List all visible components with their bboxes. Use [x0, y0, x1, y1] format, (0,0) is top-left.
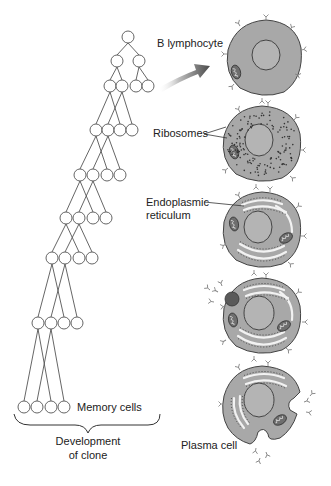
- clone-cell-node: [59, 252, 71, 264]
- cell-b-lymphocyte: [222, 15, 307, 104]
- clone-cell-node: [114, 169, 126, 181]
- clone-cell-node: [46, 252, 58, 264]
- clone-cell-node: [58, 317, 70, 329]
- clone-cell-node: [45, 317, 57, 329]
- tree-branch: [52, 264, 64, 317]
- label-endoplasmic: Endoplasmic: [146, 196, 209, 208]
- clone-diagram: [0, 0, 331, 486]
- tree-branch: [128, 43, 139, 55]
- clone-cell-node: [74, 169, 86, 181]
- clone-cell-node: [90, 124, 102, 136]
- clone-cell-node: [102, 124, 114, 136]
- memory-cell-node: [18, 401, 30, 413]
- clone-cell-node: [87, 212, 99, 224]
- tree-branch: [110, 92, 120, 124]
- tree-branch: [24, 329, 38, 401]
- clone-cell-node: [73, 252, 85, 264]
- tree-branch: [52, 224, 66, 252]
- clone-cell-node: [32, 317, 44, 329]
- label-of-clone: of clone: [46, 449, 130, 461]
- clone-cell-node: [60, 212, 72, 224]
- clone-cell-node: [142, 80, 154, 92]
- tree-branch: [139, 67, 148, 80]
- tree-branch: [38, 264, 52, 317]
- tree-branch: [79, 224, 92, 252]
- tree-branch: [122, 92, 132, 124]
- label-memory-cells: Memory cells: [77, 401, 142, 413]
- label-reticulum: reticulum: [146, 209, 191, 221]
- clone-cell-node: [73, 212, 85, 224]
- clone-cell-node: [111, 55, 123, 67]
- clone-cell-node: [133, 55, 145, 67]
- memory-cell-node: [45, 401, 57, 413]
- clone-cell-node: [104, 80, 116, 92]
- tree-branch: [66, 181, 80, 212]
- cell-ribosomes: [222, 101, 305, 190]
- label-plasma-cell: Plasma cell: [181, 439, 237, 451]
- tree-branch: [51, 329, 64, 401]
- memory-cell-node: [58, 401, 70, 413]
- clone-cell-node: [114, 124, 126, 136]
- label-development: Development: [46, 435, 130, 447]
- tree-branch: [117, 67, 122, 80]
- tree-branch: [80, 136, 96, 169]
- clone-cell-node: [130, 80, 142, 92]
- clone-cell-node: [126, 124, 138, 136]
- clone-cell-node: [122, 31, 134, 43]
- cell-endoplasmic-reticulum: [220, 187, 307, 276]
- tree-branch: [108, 136, 120, 169]
- tree-branch: [117, 43, 128, 55]
- clone-cell-node: [87, 169, 99, 181]
- label-b-lymphocyte: B lymphocyte: [157, 37, 223, 49]
- clone-cell-node: [116, 80, 128, 92]
- tree-branch: [136, 67, 139, 80]
- clone-cell-node: [100, 212, 112, 224]
- clone-cell-node: [101, 169, 113, 181]
- tree-branch: [93, 181, 106, 212]
- label-ribosomes: Ribosomes: [153, 127, 208, 139]
- clone-cell-node: [71, 317, 83, 329]
- clone-brace: [14, 414, 160, 433]
- clone-tree: [18, 31, 154, 413]
- cell-secreting: [204, 273, 307, 362]
- tree-branch: [65, 264, 77, 317]
- tree-branch: [110, 67, 117, 80]
- tree-branch: [96, 92, 110, 124]
- clone-cell-node: [86, 252, 98, 264]
- transition-arrow: [158, 64, 210, 92]
- memory-cell-node: [31, 401, 43, 413]
